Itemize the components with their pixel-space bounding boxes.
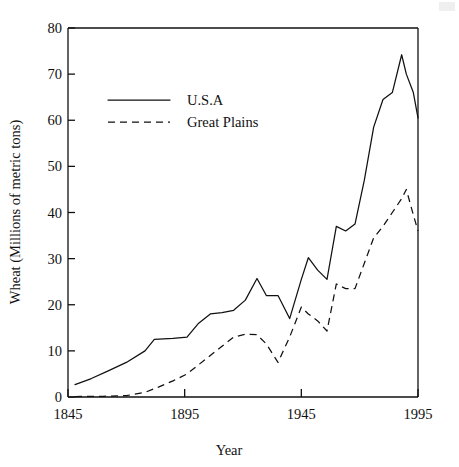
y-tick-label: 80: [48, 20, 63, 36]
axes-frame: [68, 28, 418, 397]
wheat-production-line-chart: 01020304050607080 1845189519451995 U.S.A…: [0, 0, 459, 467]
x-axis-ticks: 1845189519451995: [54, 389, 433, 422]
y-tick-label: 60: [48, 112, 63, 128]
x-axis-title: Year: [216, 442, 243, 458]
y-axis-title: Wheat (Millions of metric tons): [7, 120, 24, 305]
y-tick-label: 10: [48, 343, 63, 359]
x-tick-label: 1995: [404, 406, 433, 422]
data-series-group: [75, 55, 418, 397]
series-line-usa: [75, 55, 418, 385]
y-axis-ticks: 01020304050607080: [48, 20, 76, 405]
legend-label-usa: U.S.A: [187, 92, 224, 108]
series-line-great-plains: [75, 189, 418, 396]
x-tick-label: 1945: [287, 406, 316, 422]
y-tick-label: 30: [48, 251, 63, 267]
x-tick-label: 1895: [170, 406, 199, 422]
y-tick-label: 70: [48, 66, 63, 82]
legend-label-great-plains: Great Plains: [187, 114, 259, 130]
y-tick-label: 0: [55, 389, 62, 405]
chart-legend: U.S.A Great Plains: [108, 92, 259, 130]
x-tick-label: 1845: [54, 406, 83, 422]
y-tick-label: 20: [48, 297, 63, 313]
y-tick-label: 40: [48, 205, 63, 221]
chart-canvas: 01020304050607080 1845189519451995 U.S.A…: [0, 0, 459, 467]
y-tick-label: 50: [48, 158, 63, 174]
